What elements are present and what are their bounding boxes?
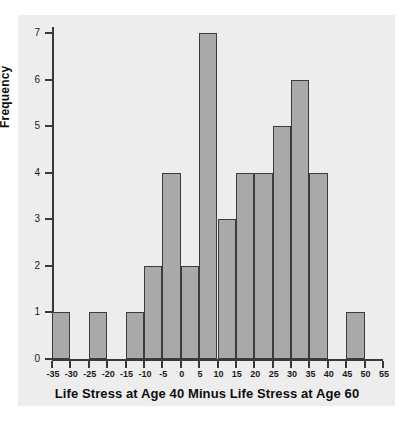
x-tick bbox=[69, 361, 71, 368]
y-tick-label: 3 bbox=[20, 214, 40, 224]
y-tick bbox=[45, 79, 52, 81]
y-tick bbox=[45, 218, 52, 220]
histogram-bar bbox=[52, 312, 70, 359]
histogram-bar bbox=[181, 266, 199, 359]
x-tick bbox=[382, 361, 384, 368]
y-tick-label: 7 bbox=[20, 28, 40, 38]
x-tick bbox=[88, 361, 90, 368]
x-tick bbox=[308, 361, 310, 368]
y-tick bbox=[45, 265, 52, 267]
histogram-bar bbox=[346, 312, 364, 359]
x-tick bbox=[106, 361, 108, 368]
histogram-bar bbox=[236, 173, 254, 359]
y-tick-label: 5 bbox=[20, 121, 40, 131]
histogram-bar bbox=[291, 80, 309, 359]
y-tick bbox=[45, 125, 52, 127]
histogram-bar bbox=[254, 173, 272, 359]
x-tick bbox=[345, 361, 347, 368]
x-tick bbox=[235, 361, 237, 368]
x-tick bbox=[253, 361, 255, 368]
x-tick bbox=[180, 361, 182, 368]
x-tick bbox=[161, 361, 163, 368]
x-tick bbox=[272, 361, 274, 368]
x-tick bbox=[143, 361, 145, 368]
y-tick-label: 4 bbox=[20, 168, 40, 178]
histogram-bar bbox=[309, 173, 327, 359]
histogram-bar bbox=[162, 173, 180, 359]
x-axis-label: Life Stress at Age 40 Minus Life Stress … bbox=[0, 386, 414, 401]
histogram-bar bbox=[218, 219, 236, 359]
x-tick bbox=[290, 361, 292, 368]
x-tick bbox=[364, 361, 366, 368]
histogram-bar bbox=[89, 312, 107, 359]
y-axis-label: Frequency bbox=[0, 66, 12, 129]
x-tick bbox=[198, 361, 200, 368]
histogram-bar bbox=[273, 126, 291, 359]
y-tick bbox=[45, 172, 52, 174]
y-tick-label: 2 bbox=[20, 261, 40, 271]
x-tick bbox=[125, 361, 127, 368]
y-tick bbox=[45, 32, 52, 34]
y-tick-label: 1 bbox=[20, 307, 40, 317]
y-tick-label: 6 bbox=[20, 75, 40, 85]
x-tick bbox=[51, 361, 53, 368]
y-tick-label: 0 bbox=[20, 354, 40, 364]
y-tick bbox=[45, 311, 52, 313]
y-tick bbox=[45, 358, 52, 360]
histogram-bar bbox=[144, 266, 162, 359]
histogram-bar bbox=[126, 312, 144, 359]
x-tick-label: 55 bbox=[372, 369, 396, 379]
histogram-bar bbox=[199, 33, 217, 359]
y-axis-line bbox=[52, 27, 54, 361]
histogram-figure: 01234567 -35-30-25-20-15-10-505101520253… bbox=[0, 0, 414, 423]
x-tick bbox=[327, 361, 329, 368]
x-tick bbox=[217, 361, 219, 368]
